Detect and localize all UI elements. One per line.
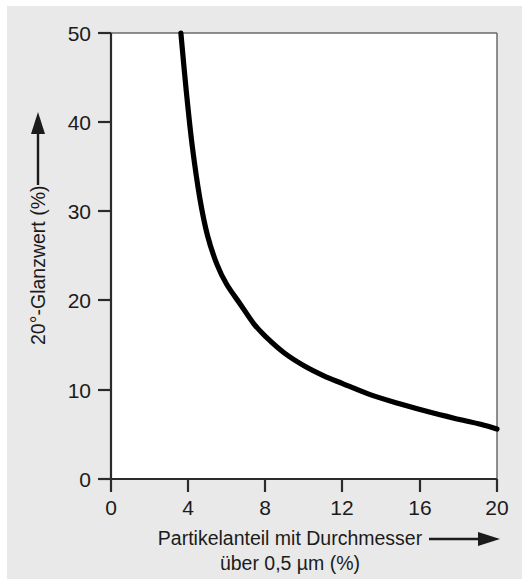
x-tick-label: 0 xyxy=(105,496,117,519)
figure-root: 50 40 30 20 10 0 0 4 8 12 16 20 20°-Glan… xyxy=(0,0,530,587)
x-axis-title-line2: über 0,5 µm (%) xyxy=(220,552,360,574)
y-tick-label: 0 xyxy=(79,468,91,491)
x-axis-title-line1: Partikelanteil mit Durchmesser xyxy=(158,527,423,549)
x-tick-label: 20 xyxy=(485,496,508,519)
y-tick-label: 40 xyxy=(68,111,91,134)
x-tick-label: 8 xyxy=(259,496,271,519)
y-tick-label: 20 xyxy=(68,289,91,312)
y-axis-title: 20°-Glanzwert (%) xyxy=(27,185,49,345)
x-axis-ticks xyxy=(111,479,497,492)
x-tick-label: 16 xyxy=(408,496,431,519)
x-tick-label: 4 xyxy=(182,496,194,519)
y-tick-label: 10 xyxy=(68,379,91,402)
y-axis-direction-arrow xyxy=(31,112,45,185)
x-axis-direction-arrow xyxy=(429,532,500,546)
y-axis-ticks xyxy=(98,33,111,479)
y-tick-label: 50 xyxy=(68,22,91,45)
line-chart: 50 40 30 20 10 0 0 4 8 12 16 20 20°-Glan… xyxy=(0,0,530,587)
x-tick-label: 12 xyxy=(330,496,353,519)
y-tick-label: 30 xyxy=(68,200,91,223)
